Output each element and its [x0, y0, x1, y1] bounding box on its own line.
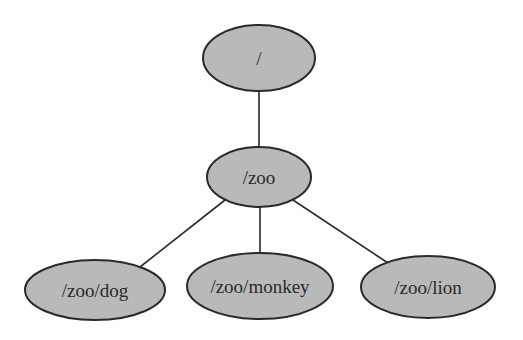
node-monkey-label: /zoo/monkey [210, 276, 310, 297]
node-root: / [203, 25, 315, 91]
tree-diagram: / /zoo /zoo/dog /zoo/monkey /zoo/lion [0, 0, 523, 340]
node-dog: /zoo/dog [25, 260, 165, 320]
node-lion: /zoo/lion [361, 256, 495, 318]
node-zoo-label: /zoo [243, 167, 276, 188]
node-root-label: / [256, 48, 262, 69]
node-monkey: /zoo/monkey [187, 253, 333, 319]
node-zoo: /zoo [207, 147, 311, 207]
edge-zoo-lion [293, 200, 388, 263]
node-dog-label: /zoo/dog [62, 280, 129, 301]
edge-zoo-dog [140, 200, 225, 267]
node-lion-label: /zoo/lion [394, 277, 462, 298]
